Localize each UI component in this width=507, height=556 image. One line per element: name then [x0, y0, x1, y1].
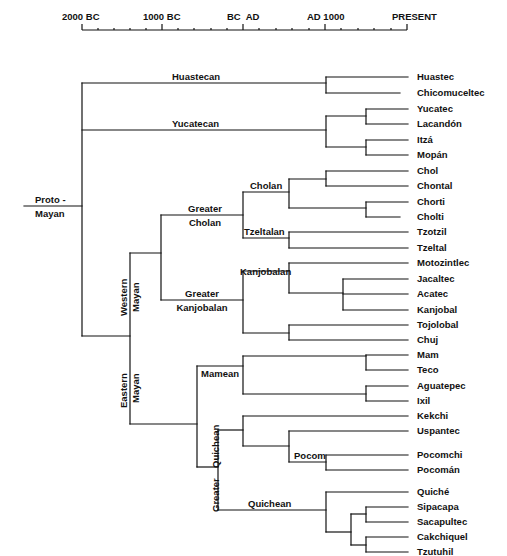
language-label: Mopán: [417, 150, 448, 160]
root-label-line1: Proto -: [35, 195, 66, 205]
language-label: Chol: [417, 166, 438, 176]
branch-label-greater-cholan-1: Greater: [170, 204, 240, 214]
branch-label-greater-cholan-2: Cholan: [170, 218, 240, 228]
language-label: Tojolobal: [417, 320, 459, 330]
language-label: Chorti: [417, 197, 445, 207]
language-label: Chontal: [417, 181, 452, 191]
branch-label-western-mayan-2: Mayan: [131, 282, 141, 312]
language-label: Mam: [417, 350, 439, 360]
language-label: Kanjobal: [417, 305, 457, 315]
branch-label-huastecan: Huastecan: [172, 72, 220, 82]
branch-label-greater-kanjobalan-1: Greater: [165, 289, 239, 299]
language-label: Lacandón: [417, 119, 462, 129]
language-label: Pocomchi: [417, 450, 462, 460]
branch-label-greater-quichean-1: Greater: [211, 478, 221, 512]
language-label: Cakchiquel: [417, 532, 468, 542]
language-label: Kekchi: [417, 411, 448, 421]
branch-label-cholan: Cholan: [250, 181, 282, 191]
language-label: Chuj: [417, 335, 438, 345]
language-label: Motozintlec: [417, 258, 469, 268]
language-label: Sipacapa: [417, 502, 459, 512]
branch-label-greater-quichean-2: Quichean: [211, 425, 221, 468]
language-label: Uspantec: [417, 426, 460, 436]
mayan-language-family-tree: 2000 BC 1000 BC BC AD AD 1000 PRESENT: [0, 0, 507, 556]
branch-label-mamean: Mamean: [201, 369, 239, 379]
language-label: Itzá: [417, 135, 433, 145]
language-label: Chicomuceltec: [417, 88, 485, 98]
language-label: Aguatepec: [417, 381, 466, 391]
root-label-line2: Mayan: [35, 209, 65, 219]
branch-label-greater-kanjobalan-2: Kanjobalan: [165, 303, 239, 313]
branch-label-kanjobalan: Kanjobalan: [240, 267, 291, 277]
language-label: Pocomán: [417, 465, 460, 475]
branch-label-yucatecan: Yucatecan: [172, 119, 219, 129]
language-label: Teco: [417, 365, 438, 375]
language-label: Cholti: [417, 212, 444, 222]
language-label: Yucatec: [417, 104, 453, 114]
branch-label-western-mayan-1: Western: [119, 279, 129, 316]
branch-label-tzeltalan: Tzeltalan: [244, 227, 285, 237]
branch-label-eastern-mayan-2: Mayan: [131, 373, 141, 403]
language-label: Acatec: [417, 289, 448, 299]
language-label: Quiché: [417, 487, 449, 497]
language-label: Tzotzil: [417, 227, 447, 237]
language-label: Jacaltec: [417, 274, 455, 284]
language-label: Sacapultec: [417, 517, 467, 527]
branch-label-quichean: Quichean: [248, 499, 291, 509]
branch-label-eastern-mayan-1: Eastern: [119, 373, 129, 408]
branch-label-pocom: Pocom: [294, 451, 326, 461]
language-label: Tzutuhil: [417, 547, 453, 556]
language-label: Huastec: [417, 72, 454, 82]
language-label: Ixil: [417, 396, 430, 406]
language-label: Tzeltal: [417, 243, 447, 253]
